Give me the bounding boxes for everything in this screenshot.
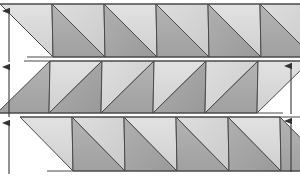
tile-triangle xyxy=(20,117,73,171)
tile-triangle xyxy=(257,61,300,113)
band-bottom xyxy=(20,117,300,171)
tile-triangle xyxy=(280,117,300,171)
bands-group xyxy=(0,4,300,171)
triangular-strip-figure xyxy=(0,0,300,176)
band-top xyxy=(0,4,300,57)
tile-triangle xyxy=(0,4,53,57)
band-middle xyxy=(0,61,300,113)
tile-triangle xyxy=(0,61,50,113)
figure-canvas xyxy=(0,0,300,176)
